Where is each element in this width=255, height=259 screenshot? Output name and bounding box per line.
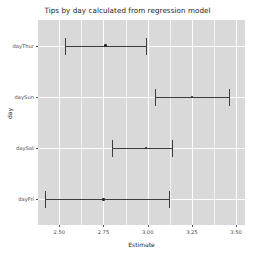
- chart-container: Tips by day calculated from regression m…: [0, 0, 255, 259]
- y-tick-mark: [36, 46, 38, 47]
- x-tick-mark: [103, 225, 104, 227]
- y-tick-mark: [36, 148, 38, 149]
- y-axis-title: day: [6, 99, 13, 129]
- errorbar-line: [112, 148, 172, 149]
- x-tick-label: 3.25: [186, 229, 198, 235]
- x-tick-mark: [148, 225, 149, 227]
- y-tick-mark: [36, 97, 38, 98]
- gridline-x-2.50: [59, 20, 60, 225]
- chart-title: Tips by day calculated from regression m…: [0, 6, 255, 15]
- y-tick-label-daySat: daySat: [2, 145, 34, 151]
- errorbar-cap-high: [169, 191, 170, 208]
- y-tick-mark: [36, 199, 38, 200]
- gridline-x-minor: [170, 20, 171, 225]
- x-tick-mark: [59, 225, 60, 227]
- errorbar-cap-high: [146, 38, 147, 55]
- estimate-point-dayThur: [104, 44, 107, 47]
- errorbar-line: [45, 199, 169, 200]
- estimate-point-dayFri: [102, 198, 105, 201]
- errorbar-cap-high: [172, 140, 173, 157]
- x-tick-label: 3.00: [142, 229, 154, 235]
- gridline-x-3.25: [192, 20, 193, 225]
- errorbar-cap-high: [229, 89, 230, 106]
- x-tick-mark: [236, 225, 237, 227]
- errorbar-cap-low: [45, 191, 46, 208]
- gridline-x-minor: [126, 20, 127, 225]
- y-tick-label-dayFri: dayFri: [2, 196, 34, 202]
- errorbar-cap-low: [112, 140, 113, 157]
- x-tick-mark: [192, 225, 193, 227]
- x-tick-label: 2.50: [53, 229, 65, 235]
- x-tick-label: 3.50: [230, 229, 242, 235]
- gridline-x-minor: [81, 20, 82, 225]
- plot-panel: [38, 20, 245, 225]
- x-tick-label: 2.75: [98, 229, 110, 235]
- gridline-x-3.50: [236, 20, 237, 225]
- gridline-x-3.00: [148, 20, 149, 225]
- x-axis-title: Estimate: [38, 241, 245, 248]
- y-tick-label-dayThur: dayThur: [2, 43, 34, 49]
- errorbar-cap-low: [65, 38, 66, 55]
- gridline-x-2.75: [103, 20, 104, 225]
- gridline-x-minor: [214, 20, 215, 225]
- errorbar-cap-low: [155, 89, 156, 106]
